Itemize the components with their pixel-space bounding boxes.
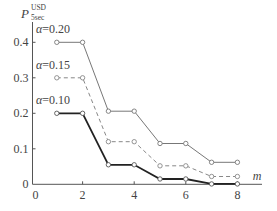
series-label-2: α=0.10 <box>36 93 70 107</box>
data-point-marker <box>235 182 239 186</box>
data-point-marker <box>132 109 136 113</box>
y-tick-label: 0 <box>23 177 29 191</box>
y-tick-label: 0.1 <box>14 142 29 156</box>
data-point-marker <box>132 163 136 167</box>
data-point-marker <box>106 109 110 113</box>
labels-layer: α=0.20α=0.15α=0.10 <box>36 22 70 107</box>
data-point-marker <box>80 76 84 80</box>
series-layer <box>55 40 240 186</box>
data-point-marker <box>55 76 59 80</box>
x-tick-label: 4 <box>131 188 137 202</box>
data-point-marker <box>158 164 162 168</box>
data-point-marker <box>184 177 188 181</box>
x-tick-label: 2 <box>80 188 86 202</box>
data-point-marker <box>132 140 136 144</box>
series-line-2 <box>57 113 238 184</box>
y-tick-label: 0.2 <box>14 106 29 120</box>
data-point-marker <box>80 40 84 44</box>
data-point-marker <box>235 174 239 178</box>
y-tick-label: 0.4 <box>14 35 29 49</box>
data-point-marker <box>55 40 59 44</box>
chart-canvas: 00.10.20.30.402468mPUSD5sec α=0.20α=0.15… <box>0 0 277 211</box>
x-tick-label: 8 <box>234 188 240 202</box>
data-point-marker <box>106 140 110 144</box>
y-tick-label: 0.3 <box>14 71 29 85</box>
series-label-1: α=0.15 <box>36 58 70 72</box>
data-point-marker <box>80 111 84 115</box>
data-point-marker <box>184 141 188 145</box>
data-point-marker <box>55 111 59 115</box>
x-tick-label: 6 <box>183 188 189 202</box>
x-axis-label: m <box>253 169 262 183</box>
data-point-marker <box>158 141 162 145</box>
series-label-0: α=0.20 <box>36 22 70 36</box>
data-point-marker <box>235 160 239 164</box>
data-point-marker <box>158 177 162 181</box>
step-chart: 00.10.20.30.402468mPUSD5sec α=0.20α=0.15… <box>0 0 277 211</box>
data-point-marker <box>209 174 213 178</box>
data-point-marker <box>106 163 110 167</box>
y-axis-label-superscript: USD <box>31 3 47 12</box>
data-point-marker <box>209 160 213 164</box>
y-axis-label-subscript: 5sec <box>31 13 45 22</box>
x-tick-label: 0 <box>33 188 39 202</box>
data-point-marker <box>184 164 188 168</box>
data-point-marker <box>209 182 213 186</box>
y-axis-label: P <box>20 6 29 21</box>
series-line-0 <box>57 42 238 162</box>
